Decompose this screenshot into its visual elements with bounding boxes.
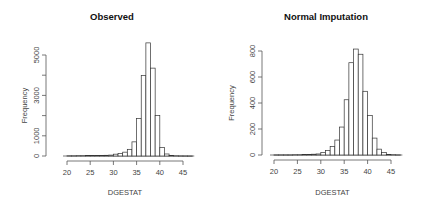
y-tick-label: 5000 xyxy=(32,47,41,64)
histogram-bar xyxy=(358,54,363,155)
y-tick-label: 3000 xyxy=(32,87,41,104)
histogram-bar xyxy=(368,115,373,155)
x-tick-label: 45 xyxy=(179,168,187,177)
histogram-bar xyxy=(330,147,335,155)
x-tick-label: 40 xyxy=(156,168,164,177)
histogram-bar xyxy=(311,154,316,155)
x-axis: 202530354045 xyxy=(63,161,187,177)
histogram-bar xyxy=(109,155,114,156)
histogram-bar xyxy=(146,43,151,156)
histogram-bar xyxy=(141,76,146,156)
histogram-bar xyxy=(377,149,382,155)
histogram-figure: Observed 202530354045 0100030005000 DGES… xyxy=(0,0,421,206)
y-tick-label: 600 xyxy=(248,71,257,84)
histogram-bar xyxy=(104,155,109,156)
x-tick-label: 30 xyxy=(109,168,117,177)
histogram-bar xyxy=(335,140,340,155)
x-tick-label: 30 xyxy=(317,167,325,176)
x-axis: 202530354045 xyxy=(270,160,395,176)
y-tick-label: 0 xyxy=(32,154,41,158)
histogram-bar xyxy=(132,142,137,156)
x-tick-label: 25 xyxy=(86,168,94,177)
y-axis-label: Frequency xyxy=(227,85,236,121)
histogram-bar xyxy=(349,63,354,155)
histogram-bar xyxy=(372,138,377,155)
x-tick-label: 20 xyxy=(63,168,71,177)
y-tick-label: 400 xyxy=(248,97,257,110)
histogram-bar xyxy=(321,152,326,155)
histogram-bar xyxy=(151,68,156,156)
y-axis-label: Frequency xyxy=(20,88,29,124)
x-tick-label: 45 xyxy=(387,167,395,176)
histogram-bar xyxy=(316,154,321,155)
panel-observed: Observed 202530354045 0100030005000 DGES… xyxy=(20,11,194,197)
histogram-bar xyxy=(118,153,123,156)
histogram-bar xyxy=(363,91,368,155)
histogram-bar xyxy=(123,152,128,156)
y-axis: 0100030005000 xyxy=(32,47,46,158)
x-tick-label: 40 xyxy=(363,167,371,176)
histogram-bars xyxy=(270,49,402,155)
x-axis-label: DGESTAT xyxy=(108,188,143,197)
histogram-bar xyxy=(382,152,387,155)
x-axis-label: DGESTAT xyxy=(315,188,350,197)
histogram-bar xyxy=(127,149,132,156)
histogram-bar xyxy=(340,127,345,155)
y-axis: 0200400600800 xyxy=(248,45,262,157)
histogram-bar xyxy=(325,150,330,155)
x-tick-label: 25 xyxy=(293,167,301,176)
y-tick-label: 200 xyxy=(248,123,257,136)
histogram-bar xyxy=(354,49,359,155)
chart-title: Normal Imputation xyxy=(284,11,368,22)
histogram-bar xyxy=(137,119,142,156)
chart-canvas: Observed 202530354045 0100030005000 DGES… xyxy=(0,0,421,206)
histogram-bar xyxy=(307,154,312,155)
chart-title: Observed xyxy=(90,11,134,22)
histogram-bar xyxy=(155,116,160,156)
histogram-bar xyxy=(344,100,349,155)
y-tick-label: 800 xyxy=(248,45,257,58)
y-tick-label: 0 xyxy=(248,153,257,157)
x-tick-label: 20 xyxy=(270,167,278,176)
histogram-bar xyxy=(113,154,118,156)
histogram-bar xyxy=(160,148,165,156)
x-tick-label: 35 xyxy=(340,167,348,176)
panel-normal-imputation: Normal Imputation 202530354045 020040060… xyxy=(227,11,402,197)
histogram-bars xyxy=(63,43,194,156)
histogram-bar xyxy=(386,154,391,155)
histogram-bar xyxy=(164,154,169,156)
x-tick-label: 35 xyxy=(132,168,140,177)
y-tick-label: 1000 xyxy=(32,127,41,144)
histogram-bar xyxy=(99,155,104,156)
histogram-bar xyxy=(95,155,100,156)
